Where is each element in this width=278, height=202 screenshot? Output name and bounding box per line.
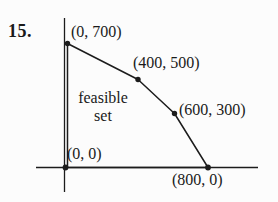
vertex-dot-800-0 [205,165,211,171]
vertex-dot-0-700 [65,41,70,46]
vertex-dot-600-300 [172,111,177,116]
region-label-line1: feasible [76,89,130,107]
vertex-label-0-0: (0, 0) [67,145,102,163]
feasible-set-figure: 15. (0, 700) (400, 500) (600, 300) (800,… [0,0,278,202]
vertex-label-0-700: (0, 700) [71,23,122,41]
region-label-line2: set [76,107,130,125]
region-label: feasible set [76,89,130,125]
vertex-dot-0-0 [63,165,69,171]
vertex-dot-400-500 [135,77,140,82]
vertex-label-400-500: (400, 500) [133,54,200,72]
vertex-label-600-300: (600, 300) [179,101,246,119]
vertex-label-800-0: (800, 0) [172,171,223,189]
